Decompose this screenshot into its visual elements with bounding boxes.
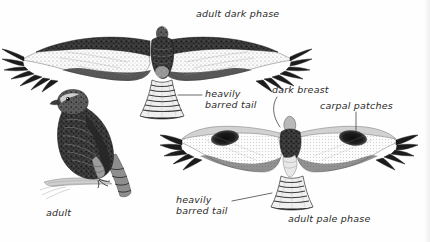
caption-carpal-patches: carpal patches: [320, 100, 393, 111]
caption-heavily-barred-tail-lower: heavily barred tail: [176, 194, 228, 216]
caption-heavily-barred-tail-upper: heavily barred tail: [205, 88, 257, 110]
caption-line-1: heavily: [176, 194, 212, 205]
caption-adult: adult: [46, 207, 71, 218]
right-edge-shading: [424, 0, 430, 242]
caption-dark-breast: dark breast: [272, 84, 329, 95]
illustration-plate: adult dark phase heavily barred tail dar…: [0, 0, 430, 242]
caption-line-2: barred tail: [205, 99, 257, 110]
dark-breast-band: [280, 129, 301, 161]
caption-line-1: heavily: [205, 88, 241, 99]
caption-line-2: barred tail: [176, 205, 228, 216]
caption-adult-dark-phase: adult dark phase: [196, 8, 279, 19]
caption-adult-pale-phase: adult pale phase: [288, 213, 370, 224]
